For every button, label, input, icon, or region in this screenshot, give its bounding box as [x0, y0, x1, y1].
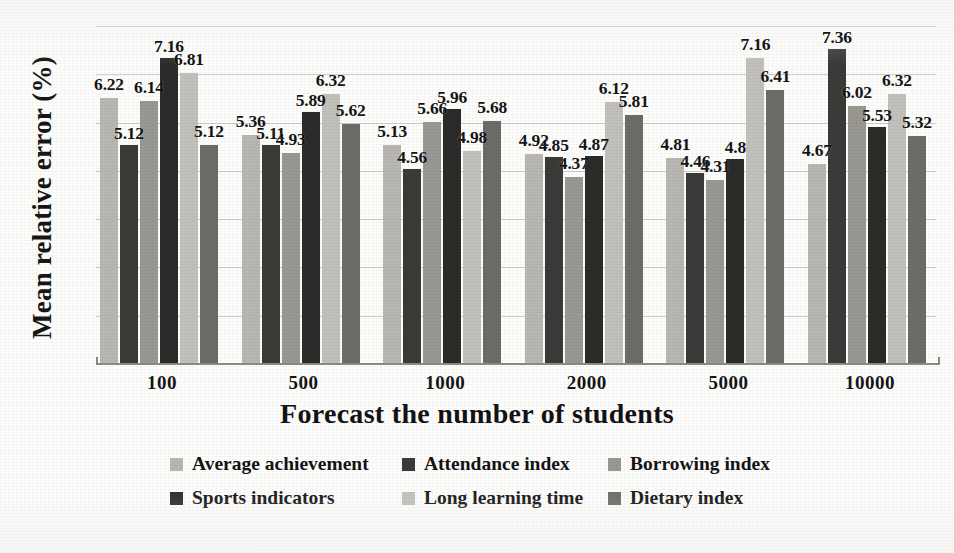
bar	[565, 177, 583, 364]
bar	[908, 136, 926, 364]
bar-wrapper: 4.92	[525, 26, 543, 364]
bar-wrapper: 5.13	[383, 26, 401, 364]
bar	[625, 115, 643, 364]
bar	[888, 94, 906, 364]
bar-wrapper: 6.22	[100, 26, 118, 364]
bar	[200, 145, 218, 364]
bar-value-label: 4.98	[457, 127, 487, 148]
bar	[383, 145, 401, 364]
bar	[342, 124, 360, 364]
bar-wrapper: 4.46	[686, 26, 704, 364]
bar-value-label: 5.89	[296, 90, 326, 111]
plot-area: 6.225.126.147.166.815.125.365.114.935.89…	[96, 26, 936, 364]
bar-value-label: 5.81	[619, 91, 649, 112]
bar-wrapper: 4.93	[282, 26, 300, 364]
bar-value-label: 6.41	[760, 66, 790, 87]
bar-wrapper: 4.87	[585, 26, 603, 364]
bar-value-label: 6.32	[882, 70, 912, 91]
bar-wrapper: 5.81	[625, 26, 643, 364]
bar	[160, 58, 178, 364]
legend-swatch-icon	[402, 492, 415, 505]
bar	[545, 157, 563, 365]
bar	[180, 73, 198, 364]
bar-value-label: 4.31	[700, 156, 730, 177]
legend-item[interactable]: Long learning time	[402, 487, 608, 509]
legend-swatch-icon	[170, 458, 183, 471]
legend-swatch-icon	[402, 458, 415, 471]
bar	[808, 164, 826, 364]
legend-label: Borrowing index	[630, 453, 770, 475]
bar-wrapper: 4.81	[666, 26, 684, 364]
bar-value-label: 4.67	[802, 140, 832, 161]
chart-legend: Average achievementAttendance indexBorro…	[170, 447, 810, 515]
bar	[525, 154, 543, 365]
bar-value-label: 5.13	[377, 121, 407, 142]
bar-wrapper: 6.14	[140, 26, 158, 364]
bar-group: 5.365.114.935.896.325.62	[242, 26, 366, 364]
x-tick-100: 100	[100, 372, 224, 394]
legend-swatch-icon	[608, 492, 621, 505]
bar-group: 6.225.126.147.166.815.12	[100, 26, 224, 364]
bar-value-label: 5.53	[862, 105, 892, 126]
bar-wrapper: 6.41	[766, 26, 784, 364]
bar-wrapper: 4.98	[463, 26, 481, 364]
bar	[726, 159, 744, 364]
bar	[686, 173, 704, 364]
bar-wrapper: 4.8	[726, 26, 744, 364]
x-tick-10000: 10000	[808, 372, 932, 394]
bar-wrapper: 5.11	[262, 26, 280, 364]
legend-swatch-icon	[170, 492, 183, 505]
bar-value-label: 5.96	[437, 87, 467, 108]
bar-value-label: 4.8	[725, 137, 746, 158]
bar-value-label: 5.12	[114, 123, 144, 144]
bar-wrapper: 6.81	[180, 26, 198, 364]
bar-value-label: 4.87	[579, 134, 609, 155]
bar	[666, 158, 684, 364]
bar-group: 4.924.854.374.876.125.81	[525, 26, 649, 364]
legend-item[interactable]: Borrowing index	[608, 453, 808, 475]
bar	[585, 156, 603, 364]
legend-item[interactable]: Dietary index	[608, 487, 808, 509]
x-tick-5000: 5000	[666, 372, 790, 394]
x-tick-1000: 1000	[383, 372, 507, 394]
bar	[483, 121, 501, 364]
bar-value-label: 4.37	[559, 153, 589, 174]
bar	[463, 151, 481, 364]
bar-value-label: 7.16	[740, 34, 770, 55]
bar	[766, 90, 784, 364]
bar-groups: 6.225.126.147.166.815.125.365.114.935.89…	[96, 26, 936, 364]
legend-label: Dietary index	[630, 487, 743, 509]
chart-canvas: Mean relative error (%) 6.225.126.147.16…	[0, 0, 954, 553]
bar-value-label: 6.81	[174, 49, 204, 70]
bar-value-label: 4.93	[276, 129, 306, 150]
bar-wrapper: 5.66	[423, 26, 441, 364]
legend-item[interactable]: Sports indicators	[170, 487, 402, 509]
bar	[120, 145, 138, 364]
bar-value-label: 4.56	[397, 147, 427, 168]
legend-label: Attendance index	[424, 453, 570, 475]
bar-wrapper: 6.32	[888, 26, 906, 364]
bar-group: 4.814.464.314.87.166.41	[666, 26, 790, 364]
bar	[322, 94, 340, 364]
bar-value-label: 5.68	[477, 97, 507, 118]
legend-label: Average achievement	[192, 453, 369, 475]
bar-value-label: 7.36	[822, 27, 852, 48]
x-tick-2000: 2000	[525, 372, 649, 394]
bar-wrapper: 4.67	[808, 26, 826, 364]
x-axis-line	[96, 363, 940, 365]
legend-label: Sports indicators	[192, 487, 334, 509]
legend-swatch-icon	[608, 458, 621, 471]
bar-group: 5.134.565.665.964.985.68	[383, 26, 507, 364]
legend-item[interactable]: Average achievement	[170, 453, 402, 475]
bar	[282, 153, 300, 364]
x-tick-500: 500	[242, 372, 366, 394]
bar	[262, 145, 280, 364]
bar-value-label: 5.32	[902, 112, 932, 133]
bar-wrapper: 5.12	[200, 26, 218, 364]
bar	[706, 180, 724, 364]
bar-wrapper: 4.56	[403, 26, 421, 364]
legend-item[interactable]: Attendance index	[402, 453, 608, 475]
bar-wrapper: 4.37	[565, 26, 583, 364]
bar-wrapper: 7.36	[828, 26, 846, 364]
bar	[848, 106, 866, 364]
